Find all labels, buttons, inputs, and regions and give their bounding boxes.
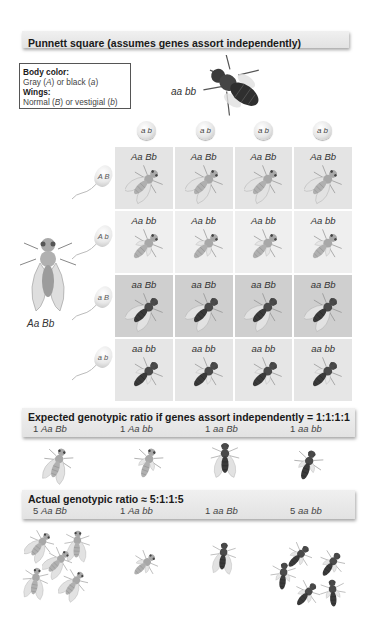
legend-box: Body color: Gray (A) or black (a) Wings:… <box>19 63 131 109</box>
cell-genotype: aa Bb <box>311 279 336 290</box>
offspring-fly-icon <box>244 226 282 273</box>
cell-genotype: aa bb <box>311 343 335 354</box>
grid-cell: Aa Bb <box>294 147 352 209</box>
offspring-fly-icon <box>185 162 223 209</box>
offspring-fly-icon <box>244 290 282 337</box>
offspring-fly-icon <box>304 226 342 273</box>
ratio-item: 1 Aa bb <box>120 423 153 434</box>
offspring-fly-icon <box>125 226 163 273</box>
grid-cell: Aa Bb <box>235 147 293 209</box>
top-parent-genotype: aa bb <box>171 86 196 97</box>
grid-cell: Aa bb <box>294 211 352 273</box>
offspring-fly-icon <box>304 290 342 337</box>
grid-cell: aa Bb <box>235 275 293 337</box>
offspring-fly-icon <box>125 354 163 401</box>
actual-fly-icon <box>58 567 88 607</box>
diagram-title: Punnett square (assumes genes assort ind… <box>28 37 301 49</box>
offspring-fly-icon <box>185 354 223 401</box>
ratio-item: 5 aa bb <box>290 505 322 516</box>
grid-cell: aa Bb <box>115 275 173 337</box>
egg-gamete-1: a b <box>137 121 156 140</box>
cell-genotype: aa Bb <box>131 279 156 290</box>
ratio-item: 1 Aa bb <box>120 505 153 516</box>
cell-genotype: aa bb <box>251 343 275 354</box>
cell-genotype: Aa bb <box>131 215 156 226</box>
expected-ratio-title: Expected genotypic ratio if genes assort… <box>28 411 355 423</box>
cell-genotype: aa bb <box>132 343 156 354</box>
ratio-item: 1 aa Bb <box>205 505 238 516</box>
legend-wings-text: Normal (B) or vestigial (b) <box>23 97 127 107</box>
expected-fly-icon <box>208 440 242 484</box>
actual-ratio-counts: 5 Aa Bb1 Aa bb1 aa Bb5 aa bb <box>0 505 371 517</box>
expected-fly-icon <box>40 445 74 489</box>
grid-cell: aa bb <box>115 339 173 401</box>
offspring-fly-icon <box>185 290 223 337</box>
grid-cell: Aa bb <box>235 211 293 273</box>
actual-fly-icon <box>208 540 238 580</box>
offspring-fly-icon <box>185 226 223 273</box>
sperm-gamete-2: A b <box>72 225 112 261</box>
actual-fly-icon <box>128 548 158 588</box>
cell-genotype: Aa Bb <box>131 151 157 162</box>
offspring-fly-icon <box>244 354 282 401</box>
sperm-gamete-4: a b <box>72 346 112 382</box>
grid-cell: aa Bb <box>294 275 352 337</box>
offspring-fly-icon <box>125 162 163 209</box>
grid-cell: aa Bb <box>175 275 233 337</box>
egg-gamete-4: a b <box>313 121 332 140</box>
cell-genotype: Aa bb <box>311 215 336 226</box>
top-parent-fly-icon <box>200 55 275 127</box>
cell-genotype: Aa bb <box>251 215 276 226</box>
grid-cell: Aa Bb <box>115 147 173 209</box>
egg-gamete-3: a b <box>254 121 273 140</box>
actual-fly-icon <box>318 577 348 617</box>
egg-gamete-2: a b <box>196 121 215 140</box>
cell-genotype: Aa Bb <box>191 151 217 162</box>
expected-ratio-counts: 1 Aa Bb1 Aa bb1 aa Bb1 aa bb <box>0 423 371 435</box>
legend-body-color-text: Gray (A) or black (a) <box>23 77 127 87</box>
legend-body-color-heading: Body color: <box>23 67 127 77</box>
expected-fly-icon <box>130 445 164 489</box>
offspring-fly-icon <box>304 354 342 401</box>
punnett-grid: Aa Bb Aa Bb Aa Bb <box>115 147 352 390</box>
sperm-gamete-1: A B <box>72 165 112 201</box>
ratio-item: 5 Aa Bb <box>33 505 67 516</box>
ratio-item: 1 aa Bb <box>205 423 238 434</box>
cell-genotype: Aa Bb <box>250 151 276 162</box>
grid-cell: aa bb <box>294 339 352 401</box>
cell-genotype: Aa Bb <box>310 151 336 162</box>
ratio-item: 1 aa bb <box>290 423 322 434</box>
cell-genotype: aa Bb <box>251 279 276 290</box>
grid-cell: aa bb <box>235 339 293 401</box>
title-bar: Punnett square (assumes genes assort ind… <box>22 31 349 48</box>
grid-cell: aa bb <box>175 339 233 401</box>
grid-cell: Aa Bb <box>175 147 233 209</box>
cell-genotype: aa bb <box>192 343 216 354</box>
cell-genotype: Aa bb <box>191 215 216 226</box>
left-parent-genotype: Aa Bb <box>27 318 54 329</box>
left-parent-fly-icon <box>18 235 78 319</box>
cell-genotype: aa Bb <box>191 279 216 290</box>
grid-cell: Aa bb <box>175 211 233 273</box>
legend-wings-heading: Wings: <box>23 87 127 97</box>
offspring-fly-icon <box>304 162 342 209</box>
actual-fly-icon <box>290 578 320 618</box>
actual-ratio-title: Actual genotypic ratio ≈ 5:1:1:5 <box>28 493 355 505</box>
ratio-item: 1 Aa Bb <box>33 423 67 434</box>
offspring-fly-icon <box>244 162 282 209</box>
sperm-gamete-3: a B <box>72 286 112 322</box>
grid-cell: Aa bb <box>115 211 173 273</box>
actual-fly-icon <box>20 565 50 605</box>
offspring-fly-icon <box>125 290 163 337</box>
expected-fly-icon <box>290 447 324 491</box>
